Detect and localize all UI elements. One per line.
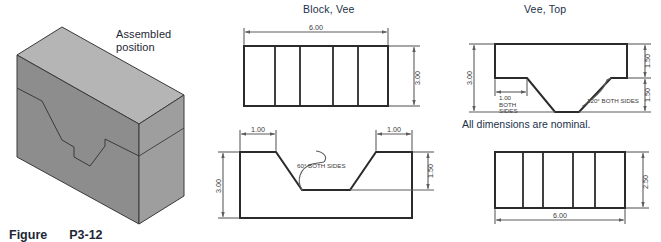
vee-end-outline: [495, 152, 625, 208]
dim-width-value: 6.00: [309, 23, 323, 32]
vt-overall-height-value: 3.00: [465, 71, 474, 85]
ve-height-value: 2.50: [641, 175, 650, 189]
sec-overall-height-value: 3.00: [214, 179, 223, 193]
sec-groove-depth-value: 1.50: [426, 164, 435, 178]
assembled-position-line2: position: [116, 41, 171, 54]
sec-angle-note: 60° BOTH SIDES: [297, 162, 346, 169]
view-vee-top-front: 3.00 1.50 1.50 1.00 BOTH SIDES 120° BOTH…: [455, 24, 659, 120]
figure-caption-label: Figure: [9, 228, 47, 242]
block-vee-outline: [244, 46, 388, 106]
vt-flat-value-line3: SIDES: [499, 107, 518, 114]
panel-title-vee-top: Vee, Top: [524, 3, 566, 15]
view-block-vee-section: 1.00 1.00 3.00 1.50 60° BOTH SIDES: [212, 124, 440, 228]
sec-left-flat-value: 1.00: [251, 125, 265, 134]
vt-angle-note: 120° BOTH SIDES: [587, 97, 639, 104]
vt-lower-height-value: 1.50: [643, 88, 652, 102]
figure-caption: FigureP3-12: [9, 228, 103, 242]
panel-title-block-vee: Block, Vee: [303, 3, 355, 15]
dim-height-value: 3.00: [413, 71, 422, 85]
assembled-vee-block-isometric: [0, 0, 230, 240]
ve-width-value: 6.00: [553, 211, 567, 220]
view-block-vee-front: 6.00 3.00: [236, 20, 436, 120]
view-vee-top-end: 2.50 6.00: [455, 136, 657, 228]
sec-right-flat-value: 1.00: [387, 125, 401, 134]
assembled-position-line1: Assembled: [116, 28, 171, 41]
sec-angle-leader-top: [316, 151, 326, 162]
pictorial-view-panel: Assembled position: [0, 0, 230, 240]
figure-caption-number: P3-12: [69, 228, 102, 242]
vt-upper-height-value: 1.50: [643, 54, 652, 68]
assembled-position-label: Assembled position: [116, 28, 171, 54]
